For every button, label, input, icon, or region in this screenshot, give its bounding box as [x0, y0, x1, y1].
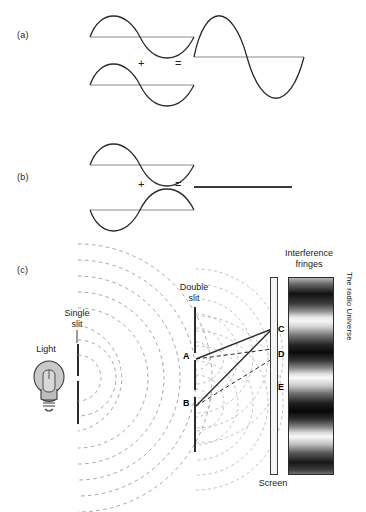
- screen-bar: [270, 277, 278, 475]
- point-label-d: D: [278, 349, 285, 359]
- point-label-b: B: [183, 398, 190, 408]
- wave-a-bottom: [88, 60, 198, 110]
- light-bulb-icon: [27, 356, 71, 416]
- panel-label-c: (c): [17, 265, 28, 275]
- side-text-the-radio-universe: The radio Universe: [345, 272, 354, 341]
- panel-label-a: (a): [17, 30, 29, 40]
- fringe-pattern: [288, 277, 334, 475]
- wave-a-top: [88, 12, 198, 62]
- interference-fringes-label: Interference fringes: [268, 248, 350, 270]
- flat-line-result: [194, 186, 292, 188]
- point-label-c: C: [278, 324, 285, 334]
- wave-a-result: [192, 14, 307, 100]
- fringe-gradient: [289, 278, 333, 474]
- point-label-a: A: [183, 351, 190, 361]
- point-label-e: E: [278, 382, 284, 392]
- operator-equals-b: =: [175, 178, 181, 190]
- ray-b-to-e: [196, 359, 272, 406]
- wave-b-bottom-inverted: [88, 185, 198, 235]
- screen-label: Screen: [245, 478, 301, 489]
- panel-label-b: (b): [17, 172, 29, 182]
- ray-b-to-c: [196, 329, 272, 406]
- operator-equals-a: =: [175, 57, 181, 69]
- light-label: Light: [24, 344, 68, 355]
- figure-root: (a) + = (b) + = (c) Light: [0, 0, 366, 512]
